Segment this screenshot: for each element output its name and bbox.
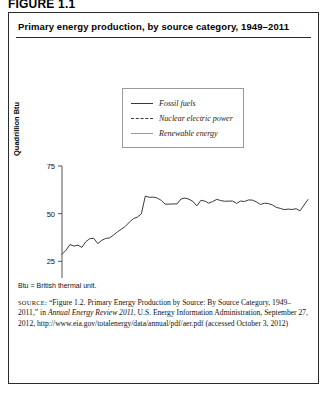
legend-line-icon-nuclear-electric-power xyxy=(131,114,153,122)
figure-title-bar: Primary energy production, by source cat… xyxy=(16,20,311,38)
y-tick-label: 50 xyxy=(47,210,55,219)
legend-line-icon-fossil-fuels xyxy=(131,99,153,107)
chart-plot-region: Quadrillion Btu 025507519501960197019801… xyxy=(16,38,313,278)
legend-label-fossil-fuels: Fossil fuels xyxy=(159,99,196,108)
legend-item-fossil-fuels: Fossil fuels xyxy=(131,96,233,110)
legend-line-icon-renewable-energy xyxy=(131,129,153,137)
legend-label-nuclear-electric-power: Nuclear electric power xyxy=(159,114,233,123)
figure-label: FIGURE 1.1 xyxy=(8,0,75,11)
series-line-fossil-fuels xyxy=(62,196,308,254)
source-publication-title: Annual Energy Review 2011 xyxy=(48,308,134,317)
y-tick-label: 75 xyxy=(47,162,55,171)
legend-item-renewable-energy: Renewable energy xyxy=(131,126,233,140)
line-chart: 02550751950196019701980199020002010 xyxy=(16,38,313,278)
page-title: Primary energy production, by source cat… xyxy=(18,21,309,32)
figure-container: Primary energy production, by source cat… xyxy=(8,12,319,384)
source-note: SOURCE: “Figure 1.2. Primary Energy Prod… xyxy=(18,298,309,329)
y-tick-label: 25 xyxy=(47,257,55,266)
legend-item-nuclear-electric-power: Nuclear electric power xyxy=(131,111,233,125)
legend-label-renewable-energy: Renewable energy xyxy=(159,129,218,138)
chart-legend: Fossil fuels Nuclear electric power Rene… xyxy=(122,88,244,148)
source-prefix: SOURCE: xyxy=(18,299,47,306)
abbreviation-note: Btu = British thermal unit. xyxy=(18,282,309,289)
